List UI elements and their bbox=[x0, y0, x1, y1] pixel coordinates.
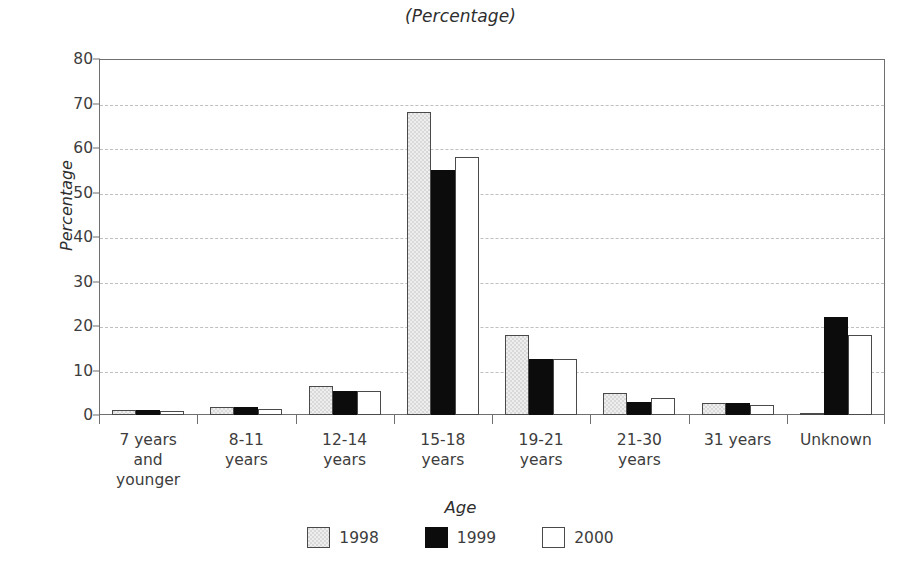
legend-swatch-icon bbox=[307, 527, 330, 548]
x-tick-label: 31 years bbox=[683, 430, 793, 450]
x-tick-label-line: years bbox=[290, 450, 400, 470]
y-tick-label: 20 bbox=[49, 317, 93, 335]
x-tick-label: 8-11years bbox=[191, 430, 301, 470]
x-tick-label-line: years bbox=[388, 450, 498, 470]
x-tick-label-line: Unknown bbox=[781, 430, 891, 450]
gridline bbox=[100, 372, 884, 373]
x-tick-label-line: 15-18 bbox=[388, 430, 498, 450]
x-axis-ticks bbox=[99, 415, 885, 425]
legend-item-1999[interactable]: 1999 bbox=[425, 527, 496, 548]
x-tick-mark bbox=[99, 415, 100, 424]
x-tick-label-line: years bbox=[486, 450, 596, 470]
chart-legend: 199819992000 bbox=[0, 527, 921, 548]
x-tick-label: 19-21years bbox=[486, 430, 596, 470]
legend-label: 1998 bbox=[339, 529, 378, 547]
y-tick-label: 70 bbox=[49, 95, 93, 113]
x-tick-mark bbox=[884, 415, 885, 424]
x-axis-title: Age bbox=[0, 498, 921, 517]
x-axis-labels: 7 yearsandyounger8-11years12-14years15-1… bbox=[99, 430, 885, 492]
y-tick-label: 60 bbox=[49, 139, 93, 157]
legend-swatch-icon bbox=[542, 527, 565, 548]
x-tick-label: 21-30years bbox=[584, 430, 694, 470]
legend-label: 2000 bbox=[574, 529, 613, 547]
x-tick-label-line: 12-14 bbox=[290, 430, 400, 450]
x-tick-mark bbox=[492, 415, 493, 424]
x-tick-label: Unknown bbox=[781, 430, 891, 450]
x-tick-label: 12-14years bbox=[290, 430, 400, 470]
chart-title: (Percentage) bbox=[0, 6, 921, 26]
x-tick-mark bbox=[394, 415, 395, 424]
y-tick-label: 80 bbox=[49, 50, 93, 68]
plot-area bbox=[99, 59, 885, 415]
legend-item-1998[interactable]: 1998 bbox=[307, 527, 378, 548]
x-tick-label-line: years bbox=[584, 450, 694, 470]
x-tick-label-line: younger bbox=[93, 470, 203, 490]
x-tick-label-line: 19-21 bbox=[486, 430, 596, 450]
y-tick-label: 40 bbox=[49, 228, 93, 246]
gridline bbox=[100, 105, 884, 106]
y-tick-label: 30 bbox=[49, 273, 93, 291]
legend-item-2000[interactable]: 2000 bbox=[542, 527, 613, 548]
gridline bbox=[100, 327, 884, 328]
gridline bbox=[100, 194, 884, 195]
legend-swatch-icon bbox=[425, 527, 448, 548]
x-tick-label-line: 21-30 bbox=[584, 430, 694, 450]
y-tick-label: 0 bbox=[49, 406, 93, 424]
x-tick-label-line: 8-11 bbox=[191, 430, 301, 450]
gridline bbox=[100, 149, 884, 150]
x-tick-label-line: 7 years bbox=[93, 430, 203, 450]
legend-label: 1999 bbox=[457, 529, 496, 547]
x-tick-label-line: years bbox=[191, 450, 301, 470]
gridline bbox=[100, 238, 884, 239]
x-tick-mark bbox=[590, 415, 591, 424]
x-tick-label: 15-18years bbox=[388, 430, 498, 470]
y-tick-label: 50 bbox=[49, 184, 93, 202]
x-tick-mark bbox=[689, 415, 690, 424]
y-tick-label: 10 bbox=[49, 362, 93, 380]
x-tick-label-line: 31 years bbox=[683, 430, 793, 450]
x-tick-label: 7 yearsandyounger bbox=[93, 430, 203, 490]
x-tick-mark bbox=[197, 415, 198, 424]
x-tick-mark bbox=[296, 415, 297, 424]
y-axis-ticks: 01020304050607080 bbox=[47, 59, 93, 415]
gridline bbox=[100, 283, 884, 284]
x-tick-label-line: and bbox=[93, 450, 203, 470]
x-tick-mark bbox=[787, 415, 788, 424]
